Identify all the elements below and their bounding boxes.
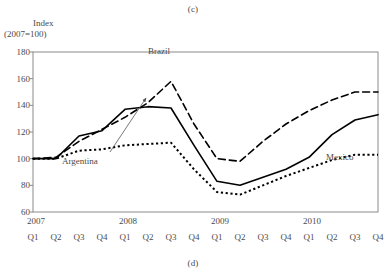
y-tick-label-100: 100 [2,154,30,164]
y-tick-label-160: 160 [2,74,30,84]
series-label-argentina: Argentina [62,156,98,166]
chart-plot-area [0,0,386,272]
argentina-leader-arrow [110,98,146,152]
y-tick-label-60: 60 [2,207,30,217]
series-label-mexico: Mexico [326,152,354,162]
series-line-mexico [33,143,378,195]
panel-tag-top: (c) [0,4,386,14]
y-tick-label-140: 140 [2,100,30,110]
y-axis-title-line1: Index [33,18,54,29]
data-series-layer [33,81,378,194]
y-tick-label-80: 80 [2,180,30,190]
panel-tag-bottom: (d) [0,258,386,268]
figure-panel-c: (c) Index (2007=100) 1801601401201008060… [0,0,386,272]
plot-frame [33,52,378,212]
y-tick-label-120: 120 [2,127,30,137]
series-line-argentina [33,107,378,186]
series-label-brazil: Brazil [148,46,170,56]
y-axis-tick-labels: 1801601401201008060 [0,0,30,272]
series-line-brazil [33,81,378,161]
y-tick-label-180: 180 [2,47,30,57]
